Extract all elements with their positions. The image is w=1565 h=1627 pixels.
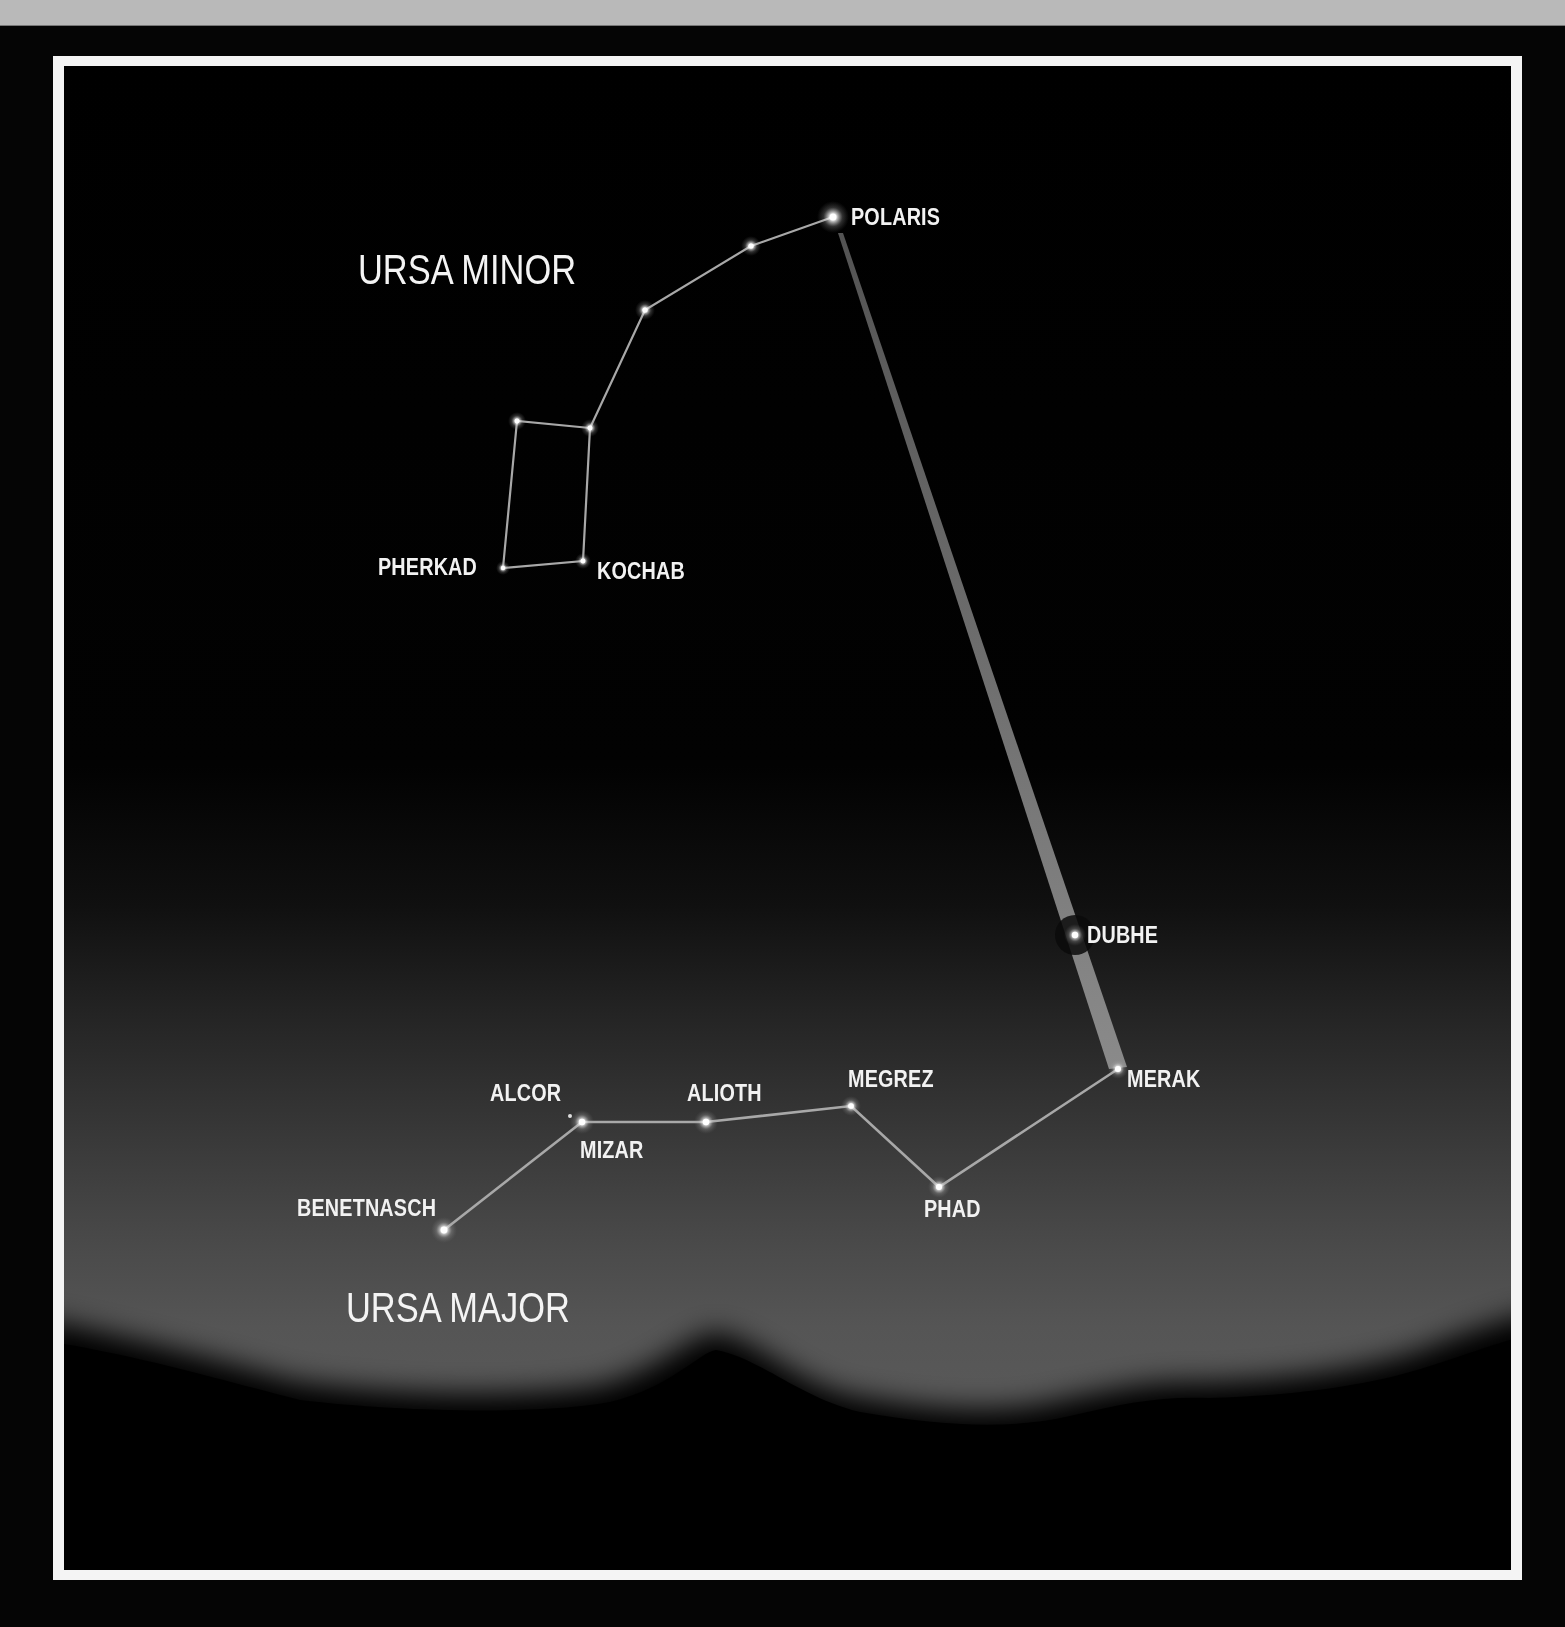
star-polaris xyxy=(817,201,849,233)
label-phad: PHAD xyxy=(924,1196,981,1223)
top-edge-bar xyxy=(0,0,1565,26)
star-pherkad xyxy=(496,561,510,575)
label-megrez: MEGREZ xyxy=(848,1066,934,1093)
star-mizar xyxy=(570,1110,594,1134)
star-um5 xyxy=(508,412,526,430)
label-mizar: MIZAR xyxy=(580,1137,643,1164)
label-benetnasch: BENETNASCH xyxy=(297,1195,436,1222)
label-dubhe: DUBHE xyxy=(1087,922,1158,949)
star-phad xyxy=(928,1176,950,1198)
star-dubhe xyxy=(1064,924,1086,946)
diagram-frame: URSA MINOR URSA MAJOR POLARIS KOCHAB PHE… xyxy=(53,56,1522,1580)
label-merak: MERAK xyxy=(1127,1066,1200,1093)
star-um3 xyxy=(635,300,655,320)
star-um2 xyxy=(741,236,761,256)
label-kochab: KOCHAB xyxy=(597,558,685,585)
title-ursa-minor: URSA MINOR xyxy=(358,246,576,294)
label-pherkad: PHERKAD xyxy=(378,554,477,581)
title-ursa-major: URSA MAJOR xyxy=(346,1284,570,1332)
star-alcor xyxy=(568,1114,572,1118)
star-kochab xyxy=(575,553,591,569)
star-alioth xyxy=(694,1110,718,1134)
label-alcor: ALCOR xyxy=(490,1080,561,1107)
night-sky-panel: URSA MINOR URSA MAJOR POLARIS KOCHAB PHE… xyxy=(64,66,1511,1570)
label-alioth: ALIOTH xyxy=(687,1080,762,1107)
star-megrez xyxy=(841,1096,861,1116)
star-merak xyxy=(1108,1059,1128,1079)
constellation-chart xyxy=(64,66,1511,1570)
label-polaris: POLARIS xyxy=(851,204,940,231)
star-um4 xyxy=(581,419,599,437)
